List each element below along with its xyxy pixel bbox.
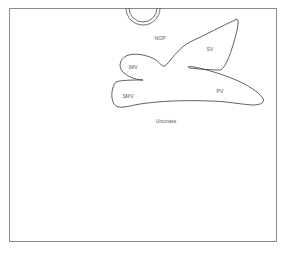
label-pv: PV xyxy=(217,88,224,94)
label-sv: SV xyxy=(207,46,214,52)
label-imv: IMV xyxy=(128,64,137,70)
label-smv: SMV xyxy=(122,93,133,99)
label-nop: NOP xyxy=(154,35,165,41)
label-uncinate: Uncinate xyxy=(156,118,177,124)
ring-icon xyxy=(126,8,160,25)
vein-outline-diagram xyxy=(0,0,286,254)
